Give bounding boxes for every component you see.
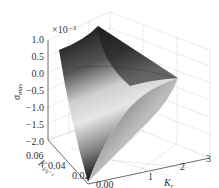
svg-text:−1.0: −1.0 xyxy=(26,102,44,113)
x-ticks: 1 2 3 xyxy=(148,153,211,182)
svg-text:−1.5: −1.5 xyxy=(26,119,44,130)
svg-text:0.02: 0.02 xyxy=(72,170,90,181)
scale-factor: ×10⁻³ xyxy=(52,24,76,35)
z-ticks: 1.0 0.5 0.0 −0.5 −1.0 −1.5 −2.0 xyxy=(26,34,44,147)
svg-text:−0.5: −0.5 xyxy=(26,85,44,96)
svg-text:−2.0: −2.0 xyxy=(26,136,44,147)
chart-svg: 1.0 0.5 0.0 −0.5 −1.0 −1.5 −2.0 ×10⁻³ 0.… xyxy=(0,0,219,188)
svg-text:σmax: σmax xyxy=(11,83,24,100)
svg-text:0.0: 0.0 xyxy=(32,68,45,79)
x-axis-label: Kr xyxy=(163,177,174,188)
svg-text:0.00: 0.00 xyxy=(96,179,114,188)
svg-text:3: 3 xyxy=(206,153,211,164)
svg-text:1: 1 xyxy=(148,171,153,182)
surface-chart: 1.0 0.5 0.0 −0.5 −1.0 −1.5 −2.0 ×10⁻³ 0.… xyxy=(0,0,219,188)
svg-text:2: 2 xyxy=(180,161,185,172)
surface xyxy=(59,26,178,182)
svg-text:0.5: 0.5 xyxy=(32,51,45,62)
z-axis-label: σmax xyxy=(11,83,24,100)
svg-text:1.0: 1.0 xyxy=(32,34,45,45)
